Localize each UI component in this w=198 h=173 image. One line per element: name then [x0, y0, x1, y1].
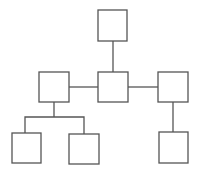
node-right-child — [159, 132, 188, 163]
tree-diagram — [0, 0, 198, 173]
node-top — [98, 10, 127, 41]
node-center — [98, 72, 128, 102]
edge-left-children-bus — [25, 117, 84, 134]
node-left-child-1 — [12, 133, 41, 163]
node-left — [39, 72, 69, 102]
node-right — [158, 72, 188, 102]
node-left-child-2 — [69, 134, 99, 164]
